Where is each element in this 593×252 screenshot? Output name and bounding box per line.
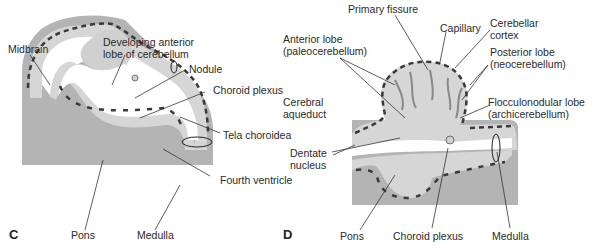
label-pons-c: Pons bbox=[71, 229, 95, 241]
label-tela-choroidea: Tela choroidea bbox=[223, 129, 291, 141]
panel-c-choroid-tuft bbox=[132, 75, 138, 81]
label-choroid-plexus-c: Choroid plexus bbox=[213, 84, 283, 96]
label-dentate-nucleus: Dentate nucleus bbox=[290, 147, 327, 171]
label-anterior-lobe: Anterior lobe (paleocerebellum) bbox=[283, 33, 367, 57]
panel-d-choroid-tuft bbox=[446, 136, 454, 144]
label-primary-fissure: Primary fissure bbox=[348, 3, 418, 15]
label-choroid-plexus-d: Choroid plexus bbox=[393, 230, 463, 242]
panel-letter-d: D bbox=[283, 227, 292, 242]
label-fourth-ventricle: Fourth ventricle bbox=[220, 174, 292, 186]
panel-letter-c: C bbox=[9, 227, 18, 242]
label-medulla-c: Medulla bbox=[137, 229, 174, 241]
label-capillary: Capillary bbox=[440, 22, 481, 34]
label-medulla-d: Medulla bbox=[492, 230, 529, 242]
label-midbrain: Midbrain bbox=[8, 43, 48, 55]
label-cerebral-aqueduct: Cerebral aqueduct bbox=[283, 96, 326, 120]
label-cerebellar-cortex: Cerebellar cortex bbox=[490, 17, 538, 41]
label-posterior-lobe: Posterior lobe (neocerebellum) bbox=[490, 46, 566, 70]
label-pons-d: Pons bbox=[340, 230, 364, 242]
label-developing-anterior-lobe: Developing anterior lobe of cerebellum bbox=[103, 36, 194, 60]
label-flocculonodular-lobe: Flocculonodular lobe (archicerebellum) bbox=[488, 96, 585, 120]
label-nodule: Nodule bbox=[189, 63, 222, 75]
